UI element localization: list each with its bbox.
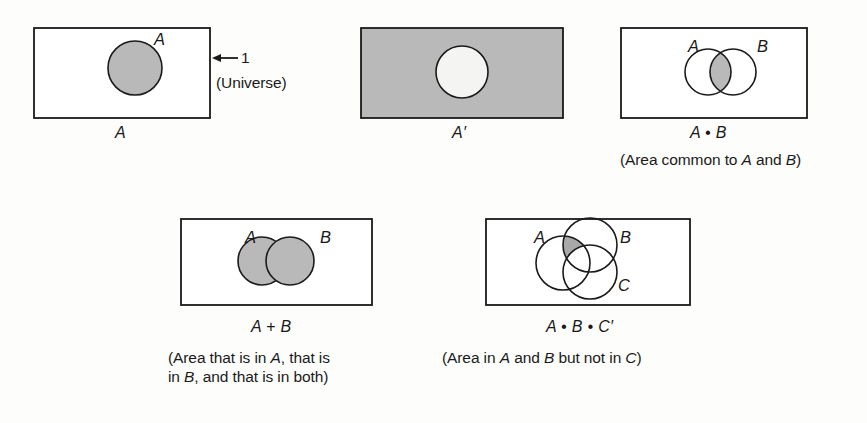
caption-seg: , that is bbox=[281, 349, 330, 366]
set-a-circle-unshaded bbox=[436, 46, 488, 98]
set-label-b-diagram-aorb: B bbox=[320, 228, 331, 247]
expression-label-a-and-b: A • B bbox=[690, 124, 727, 142]
diagram-a-and-b bbox=[620, 27, 808, 119]
set-label-a-diagram-a: A bbox=[154, 30, 165, 49]
set-label-a-diagram-ab: A bbox=[688, 37, 699, 56]
caption-seg-italic: B bbox=[184, 368, 194, 385]
caption-a-and-b: (Area common to A and B) bbox=[620, 151, 801, 169]
caption-seg: (Area common to bbox=[620, 151, 742, 168]
set-a-circle bbox=[108, 41, 162, 95]
caption-seg: , and that is in both) bbox=[194, 368, 328, 385]
universe-arrow-label: 1 bbox=[241, 49, 250, 67]
caption-seg: ) bbox=[796, 151, 801, 168]
caption-seg: ) bbox=[636, 349, 641, 366]
caption-seg: and bbox=[510, 349, 544, 366]
set-label-b-diagram-ab: B bbox=[757, 37, 768, 56]
set-b-circle-shaded bbox=[266, 237, 314, 285]
expression-label-a: A bbox=[115, 124, 126, 142]
caption-seg-italic: A bbox=[742, 151, 752, 168]
diagram-a-prime-graphic bbox=[360, 27, 564, 119]
diagram-a-or-b-graphic bbox=[180, 218, 373, 306]
diagram-a-and-b-not-c-graphic bbox=[485, 218, 691, 306]
caption-seg-italic: C bbox=[625, 349, 636, 366]
expression-label-a-and-b-not-c: A • B • C′ bbox=[546, 318, 613, 336]
expression-label-a-or-b: A + B bbox=[251, 318, 291, 336]
arrow-left-icon bbox=[212, 51, 242, 65]
diagram-a-and-b-not-c bbox=[485, 218, 691, 306]
caption-seg: in bbox=[168, 368, 184, 385]
caption-seg-italic: A bbox=[271, 349, 281, 366]
caption-a-or-b-line1: (Area that is in A, that is bbox=[168, 349, 330, 367]
diagram-a-prime bbox=[360, 27, 564, 119]
diagram-a-graphic bbox=[33, 27, 211, 119]
caption-seg-italic: B bbox=[786, 151, 796, 168]
diagram-a bbox=[33, 27, 211, 119]
set-label-a-diagram-aorb: A bbox=[245, 228, 256, 247]
diagram-a-and-b-graphic bbox=[620, 27, 808, 119]
set-label-b-diagram-abc: B bbox=[620, 228, 631, 247]
set-label-a-diagram-abc: A bbox=[534, 228, 545, 247]
caption-seg: but not in bbox=[554, 349, 625, 366]
venn-diagram-figure: A A 1 (Universe) A′ A B A • B (Area comm bbox=[0, 0, 867, 423]
set-label-c-diagram-abc: C bbox=[618, 276, 630, 295]
caption-seg: (Area that is in bbox=[168, 349, 271, 366]
caption-seg: (Area in bbox=[442, 349, 500, 366]
diagram-a-or-b bbox=[180, 218, 373, 306]
universe-arrow bbox=[212, 51, 242, 65]
caption-seg: and bbox=[752, 151, 786, 168]
caption-seg-italic: B bbox=[544, 349, 554, 366]
caption-a-and-b-not-c: (Area in A and B but not in C) bbox=[442, 349, 642, 367]
expression-label-a-prime: A′ bbox=[452, 124, 466, 142]
caption-a-or-b-line2: in B, and that is in both) bbox=[168, 368, 328, 386]
universe-note: (Universe) bbox=[216, 74, 286, 92]
caption-seg-italic: A bbox=[500, 349, 510, 366]
